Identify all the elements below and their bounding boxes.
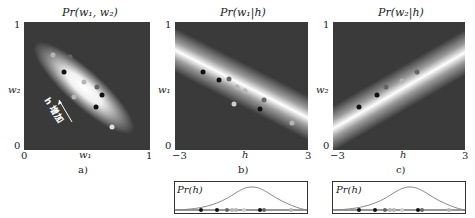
- panel-a-title: Pr(w₁, w₂): [62, 6, 118, 19]
- panel-a-xtick-right: 1: [146, 150, 152, 161]
- panel-a-density-plot: h 增加: [24, 22, 150, 150]
- panel-b-xlabel: h: [242, 149, 248, 160]
- panel-c-ylabel: w₂: [316, 84, 329, 95]
- panel-c-ytick-bottom: 0: [323, 140, 329, 151]
- panel-c-title: Pr(w₂|h): [378, 6, 424, 19]
- panel-b-title: Pr(w₁|h): [220, 6, 266, 19]
- panel-a-caption: a): [78, 164, 88, 175]
- panel-c-ytick-top: 1: [323, 19, 329, 30]
- panel-b-caption: b): [238, 164, 248, 175]
- panel-a-ytick-bottom: 0: [14, 140, 20, 151]
- panel-b-prior-label: Pr(h): [177, 184, 203, 195]
- panel-c-xtick-left: −3: [330, 150, 345, 161]
- panel-c-prior-label: Pr(h): [336, 184, 362, 195]
- panel-c-xtick-right: 3: [462, 150, 468, 161]
- panel-a-xlabel: w₁: [79, 149, 92, 160]
- panel-b-density-plot: [175, 22, 308, 150]
- panel-a-ylabel: w₂: [8, 84, 21, 95]
- panel-b-ytick-bottom: 0: [165, 140, 171, 151]
- panel-c-xlabel: h: [400, 149, 406, 160]
- panel-c-caption: c): [396, 164, 406, 175]
- panel-b-xtick-right: 3: [305, 150, 311, 161]
- panel-a-ytick-top: 1: [14, 19, 20, 30]
- panel-c-density-plot: [333, 22, 465, 150]
- panel-b-ylabel: w₁: [158, 84, 171, 95]
- panel-b-xtick-left: −3: [172, 150, 187, 161]
- panel-b-ytick-top: 1: [165, 19, 171, 30]
- panel-a-xtick-left: 0: [21, 150, 27, 161]
